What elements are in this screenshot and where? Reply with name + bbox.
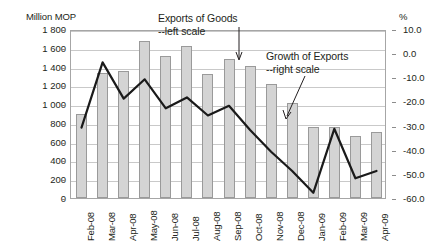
- category-label: Apr-08: [127, 214, 138, 241]
- category-label: Mar-09: [358, 212, 369, 241]
- category-label: Dec-08: [295, 212, 306, 241]
- category-label: Nov-08: [274, 212, 285, 241]
- category-label: Jun-08: [169, 213, 180, 241]
- category-label: Jul-08: [190, 216, 201, 241]
- annotation-growth-of-exports: Growth of Exports --right scale: [266, 50, 348, 75]
- export-growth-chart: Million MOP % 02004006008001 0001 2001 4…: [0, 0, 436, 252]
- annotation-exports-title: Exports of Goods: [158, 12, 238, 24]
- annotation-exports-subtitle: --left scale: [158, 25, 238, 38]
- category-label: Feb-09: [337, 212, 348, 241]
- category-label: Sep-08: [232, 212, 243, 241]
- category-label: May-08: [148, 211, 159, 241]
- category-label: Aug-08: [211, 212, 222, 241]
- annotation-exports-of-goods: Exports of Goods --left scale: [158, 12, 238, 37]
- category-label: Oct-08: [253, 214, 264, 241]
- annotation-growth-subtitle: --right scale: [266, 63, 348, 76]
- category-label: Feb-08: [85, 212, 96, 241]
- category-label: Mar-08: [106, 212, 117, 241]
- category-axis-labels: Feb-08Mar-08Apr-08May-08Jun-08Jul-08Aug-…: [0, 0, 436, 252]
- annotation-growth-title: Growth of Exports: [266, 50, 348, 62]
- category-label: Jan-09: [316, 213, 327, 241]
- category-label: Apr-09: [379, 214, 390, 241]
